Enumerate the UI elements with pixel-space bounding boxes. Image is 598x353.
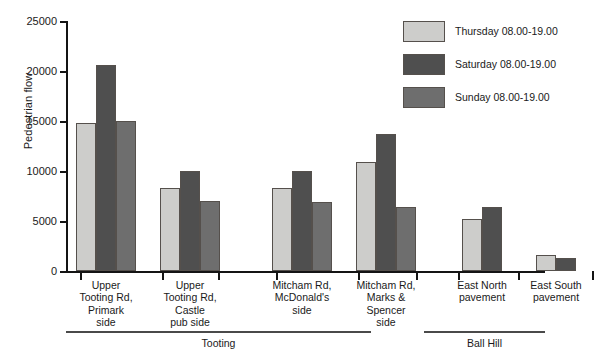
y-tick-label: 25000 [26,15,57,27]
y-tick-mark [60,221,66,223]
legend-label-0: Thursday 08.00-19.00 [455,25,558,37]
y-axis-line [66,21,68,271]
legend-swatch-2 [403,87,445,108]
bar-thursday-1 [160,188,180,271]
y-tick-mark [60,271,66,273]
bar-sunday-1 [200,201,220,271]
legend-label-1: Saturday 08.00-19.00 [455,58,556,70]
y-tick-label: 10000 [26,165,57,177]
bar-saturday-5 [556,258,576,271]
y-tick-label: 5000 [33,215,57,227]
super-group-label-1: Ball Hill [424,337,545,349]
super-group-rule-1 [424,331,545,333]
x-axis-category-labels: UpperTooting Rd,PrimarksideUpperTooting … [0,279,551,331]
legend-label-2: Sunday 08.00-19.00 [455,91,550,103]
bar-thursday-4 [462,219,482,271]
y-tick-label: 0 [51,265,57,277]
y-tick-label: 20000 [26,65,57,77]
x-axis-line [66,271,545,273]
x-label-0: UpperTooting Rd,Primarkside [63,279,149,329]
super-group-label-0: Tooting [66,337,371,349]
y-tick-mark [60,121,66,123]
bar-saturday-1 [180,171,200,271]
bar-saturday-2 [292,171,312,271]
bar-saturday-0 [96,65,116,271]
x-label-3: Mitcham Rd,Marks & Spencerside [343,279,429,329]
y-tick-mark [60,71,66,73]
bar-thursday-5 [536,255,556,271]
bar-thursday-3 [356,162,376,271]
bar-sunday-2 [312,202,332,271]
bar-thursday-2 [272,188,292,271]
y-tick-mark [60,171,66,173]
legend-swatch-0 [403,21,445,42]
y-tick-label: 15000 [26,115,57,127]
bar-saturday-3 [376,134,396,271]
bar-thursday-0 [76,123,96,271]
bar-saturday-4 [482,207,502,271]
bar-sunday-0 [116,121,136,271]
legend-swatch-1 [403,54,445,75]
x-label-5: East Southpavement [513,279,598,304]
x-label-1: UpperTooting Rd,Castlepub side [147,279,233,329]
super-group-rule-0 [66,331,371,333]
y-tick-mark [60,21,66,23]
x-label-2: Mitcham Rd,McDonald'sside [259,279,345,316]
bar-sunday-3 [396,207,416,271]
